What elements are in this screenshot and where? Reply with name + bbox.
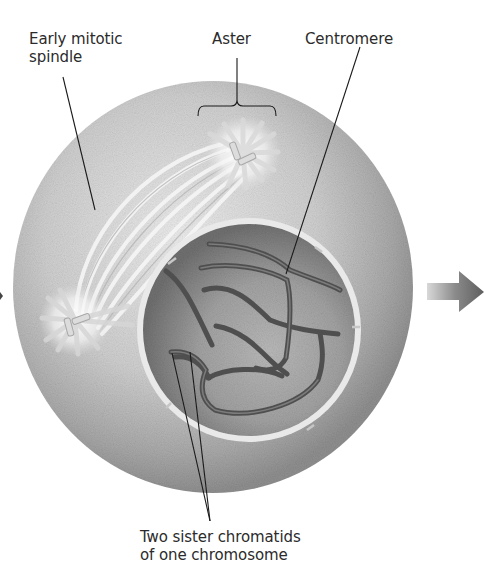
label-centromere: Centromere xyxy=(305,30,393,48)
label-sister-chromatids: Two sister chromatids of one chromosome xyxy=(140,528,301,564)
right-arrow-icon xyxy=(427,271,484,312)
diagram-canvas xyxy=(0,0,484,584)
label-early-mitotic-spindle: Early mitotic spindle xyxy=(29,30,122,66)
aster-top xyxy=(205,115,281,191)
label-chromatids-line1: Two sister chromatids xyxy=(140,528,301,546)
prophase-diagram: Early mitotic spindle Aster Centromere T… xyxy=(0,0,484,584)
label-spindle-line2: spindle xyxy=(29,48,122,66)
label-spindle-line1: Early mitotic xyxy=(29,30,122,48)
label-aster: Aster xyxy=(212,30,251,48)
previous-stage-arrowhead xyxy=(0,292,3,300)
label-chromatids-line2: of one chromosome xyxy=(140,546,301,564)
